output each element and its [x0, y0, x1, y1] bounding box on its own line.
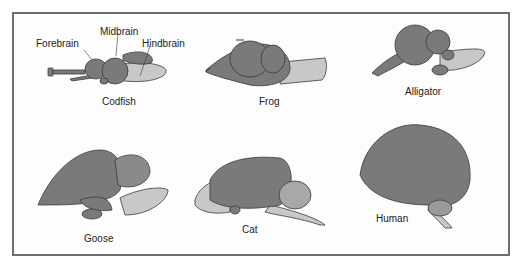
- goose-brain: [38, 150, 168, 219]
- midbrain-label: Midbrain: [100, 26, 138, 37]
- species-label-codfish: Codfish: [102, 96, 136, 107]
- species-label-frog: Frog: [259, 96, 280, 107]
- alligator-brain: [372, 25, 485, 76]
- species-label-goose: Goose: [84, 233, 113, 244]
- forebrain-label: Forebrain: [36, 38, 79, 49]
- frog-brain: [206, 40, 326, 86]
- cat-brain: [195, 157, 325, 225]
- species-label-cat: Cat: [242, 224, 258, 235]
- hindbrain-label: Hindbrain: [142, 38, 185, 49]
- species-label-alligator: Alligator: [405, 86, 441, 97]
- species-label-human: Human: [376, 213, 408, 224]
